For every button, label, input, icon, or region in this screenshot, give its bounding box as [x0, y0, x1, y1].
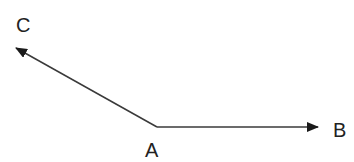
vector-diagram: A B C	[0, 0, 354, 162]
point-c-label: C	[16, 14, 30, 36]
vector-ac-arrow	[16, 48, 157, 127]
point-b-label: B	[333, 119, 346, 141]
point-a-label: A	[145, 139, 159, 161]
